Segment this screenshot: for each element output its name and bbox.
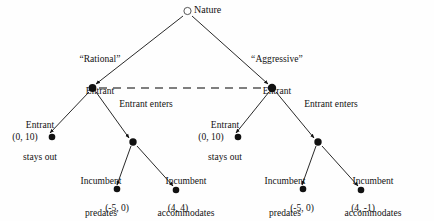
branch-label-aggressive-entrant: “Aggressive” Entrant <box>251 33 303 117</box>
branch-label-left-entrant-enters: Entrant enters <box>119 99 173 110</box>
branch-label-right-entrant-enters: Entrant enters <box>304 99 358 110</box>
branch-label-rational-line1: “Rational” <box>79 54 120 65</box>
left-predate-line1: Incumbent <box>80 176 121 187</box>
branch-label-aggressive-line2: Entrant <box>251 86 303 97</box>
incumbent-node-right <box>314 138 321 145</box>
branch-label-rational-entrant: “Rational” Entrant <box>79 33 120 117</box>
left-accommodate-line1: Incumbent <box>157 176 214 187</box>
payoff-left-predate: (-5, 0) <box>105 203 129 213</box>
payoff-right-stay-out: (0, 10) <box>198 132 223 142</box>
branch-label-aggressive-line1: “Aggressive” <box>251 54 303 65</box>
payoff-left-stay-out: (0, 10) <box>12 132 37 142</box>
game-tree-diagram: Nature “Rational” Entrant “Aggressive” E… <box>0 0 434 221</box>
payoff-left-accommodate: (4, 4) <box>168 203 189 213</box>
nature-node <box>184 7 191 14</box>
right-predate-line1: Incumbent <box>264 176 305 187</box>
right-accommodate-line1: Incumbent <box>344 176 401 187</box>
right-stay-out-line1: Entrant <box>208 120 242 131</box>
left-stay-out-line1: Entrant <box>23 120 57 131</box>
branch-label-rational-line2: Entrant <box>79 86 120 97</box>
left-stay-out-line2: stays out <box>23 152 57 163</box>
incumbent-node-left <box>129 138 136 145</box>
nature-node-label: Nature <box>194 4 221 15</box>
payoff-right-accommodate: (4, -1) <box>351 203 375 213</box>
payoff-right-predate: (-5, 0) <box>290 203 314 213</box>
